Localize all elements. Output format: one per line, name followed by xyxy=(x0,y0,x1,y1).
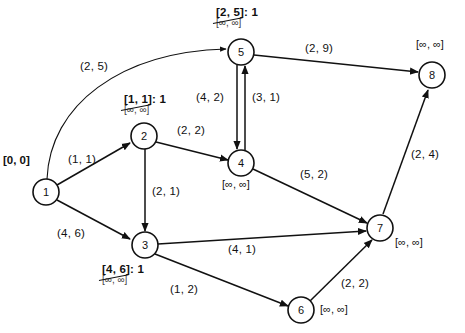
node-id-4: 4 xyxy=(238,157,244,169)
node-label-7: [∞, ∞] xyxy=(395,236,423,248)
node-label-8: [∞, ∞] xyxy=(416,38,444,50)
node-label-3: [4, 6]: 1 [∞, ∞] xyxy=(102,263,144,285)
network-flow-diagram: 1 2 3 4 5 6 7 8 [0, 0] [1, 1]: 1 [∞, ∞] … xyxy=(0,0,465,333)
edge-label-1-2: (1, 1) xyxy=(68,153,96,165)
node-id-1: 1 xyxy=(43,186,49,198)
node-label-2: [1, 1]: 1 [∞, ∞] xyxy=(124,93,166,115)
graph-canvas: 1 2 3 4 5 6 7 8 xyxy=(0,0,465,333)
edge-5-8 xyxy=(254,55,418,72)
node-label-2-old: [∞, ∞] xyxy=(124,104,149,115)
edge-label-7-8: (2, 4) xyxy=(411,148,439,160)
node-id-2: 2 xyxy=(141,130,147,142)
edge-label-3-7: (4, 1) xyxy=(228,243,256,255)
edge-label-1-5: (2, 5) xyxy=(80,60,108,72)
edge-label-5-4: (4, 2) xyxy=(196,91,224,103)
node-label-4: [∞, ∞] xyxy=(222,178,250,190)
edge-label-2-4: (2, 2) xyxy=(177,124,205,136)
node-id-7: 7 xyxy=(377,222,383,234)
edge-2-4 xyxy=(156,142,228,160)
edge-label-5-8: (2, 9) xyxy=(305,42,333,54)
edge-3-7 xyxy=(158,231,366,244)
edge-6-7 xyxy=(310,240,372,301)
edge-3-6 xyxy=(155,254,288,306)
edge-label-4-7: (5, 2) xyxy=(300,168,328,180)
node-label-6: [∞, ∞] xyxy=(320,303,348,315)
node-id-8: 8 xyxy=(429,69,435,81)
node-id-3: 3 xyxy=(142,239,148,251)
node-label-3-old: [∞, ∞] xyxy=(102,274,127,285)
edge-label-1-3: (4, 6) xyxy=(57,227,85,239)
node-id-6: 6 xyxy=(298,304,304,316)
node-id-5: 5 xyxy=(238,46,244,58)
node-label-5: [2, 5]: 1 [∞, ∞] xyxy=(216,6,258,28)
edge-label-6-7: (2, 2) xyxy=(341,277,369,289)
node-label-5-old: [∞, ∞] xyxy=(216,17,241,28)
edge-label-3-6: (1, 2) xyxy=(170,283,198,295)
node-label-1: [0, 0] xyxy=(3,154,30,166)
edge-label-2-3: (2, 1) xyxy=(152,185,180,197)
edge-label-4-5: (3, 1) xyxy=(252,91,280,103)
